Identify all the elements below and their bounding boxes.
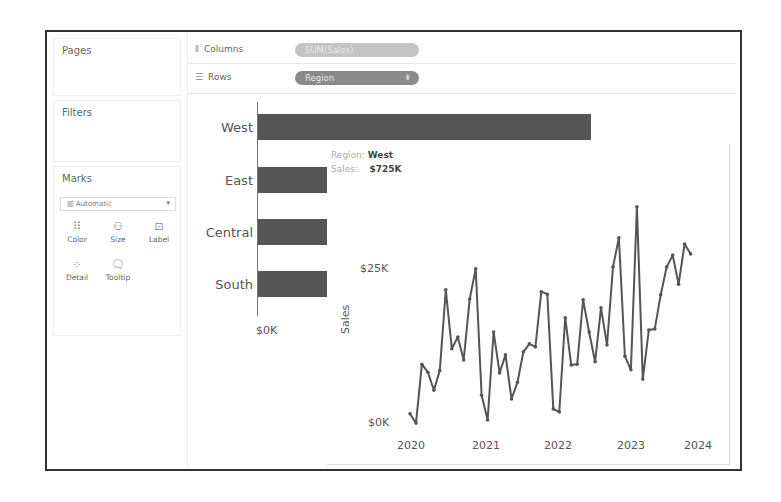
bar-east[interactable] <box>258 167 328 193</box>
filters-title: Filters <box>62 107 92 118</box>
filters-card[interactable]: Filters <box>53 100 181 162</box>
data-point[interactable] <box>689 252 693 256</box>
tooltip-panel: Region: West Sales: $725K $25K $0K Sales… <box>327 144 730 465</box>
region-pill-label: Region <box>305 73 334 83</box>
data-point[interactable] <box>414 421 418 425</box>
data-point[interactable] <box>504 353 508 357</box>
data-point[interactable] <box>563 316 567 320</box>
mark-type-value: Automatic <box>76 200 112 208</box>
side-panel: Pages Filters Marks ▥ Automatic ▾ ⠿ Colo… <box>47 32 188 469</box>
data-point[interactable] <box>653 327 657 331</box>
detail-dots-icon: ⁘ <box>58 257 96 273</box>
pages-card[interactable]: Pages <box>53 38 181 96</box>
data-point[interactable] <box>647 328 651 332</box>
data-point[interactable] <box>510 397 514 401</box>
size-label: Size <box>110 235 125 244</box>
label-box-icon: ⊡ <box>140 219 178 235</box>
region-label-east: East <box>183 173 253 188</box>
data-point[interactable] <box>683 242 687 246</box>
data-point[interactable] <box>408 412 412 416</box>
tooltip-button[interactable]: 🗨 Tooltip <box>99 257 137 291</box>
detail-label: Detail <box>66 273 88 282</box>
data-point[interactable] <box>635 205 639 209</box>
data-point[interactable] <box>575 362 579 366</box>
data-point[interactable] <box>587 330 591 334</box>
data-point[interactable] <box>480 393 484 397</box>
bar-axis-tick-0k: $0K <box>256 324 277 337</box>
marks-card: Marks ▥ Automatic ▾ ⠿ Color ⚇ Size ⊡ Lab… <box>53 166 181 336</box>
data-point[interactable] <box>498 371 502 375</box>
data-point[interactable] <box>462 358 466 362</box>
size-circles-icon: ⚇ <box>99 219 137 235</box>
data-point[interactable] <box>599 306 603 310</box>
shelf-divider <box>189 93 736 94</box>
data-point[interactable] <box>534 345 538 349</box>
tooltip-bubble-icon: 🗨 <box>99 257 137 273</box>
chevron-down-icon: ▾ <box>166 199 170 207</box>
data-point[interactable] <box>593 360 597 364</box>
shelf-divider <box>189 63 736 64</box>
rows-icon: ☰ <box>195 72 203 82</box>
sales-data-points <box>408 205 692 425</box>
rows-pill-region[interactable]: Region ⇟ <box>295 71 419 85</box>
data-point[interactable] <box>528 342 532 346</box>
data-point[interactable] <box>420 362 424 366</box>
data-point[interactable] <box>677 283 681 287</box>
data-point[interactable] <box>450 347 454 351</box>
data-point[interactable] <box>569 363 573 367</box>
mark-type-dropdown[interactable]: ▥ Automatic ▾ <box>60 197 176 211</box>
region-label-west: West <box>183 120 253 135</box>
data-point[interactable] <box>659 293 663 297</box>
data-point[interactable] <box>605 343 609 347</box>
bar-chart-icon: ▥ <box>67 200 74 208</box>
region-label-south: South <box>183 277 253 292</box>
columns-pill-sum-sales[interactable]: SUM(Sales) <box>295 43 419 57</box>
pages-title: Pages <box>62 45 91 56</box>
data-point[interactable] <box>617 236 621 240</box>
color-dots-icon: ⠿ <box>58 219 96 235</box>
color-button[interactable]: ⠿ Color <box>58 219 96 253</box>
data-point[interactable] <box>516 380 520 384</box>
data-point[interactable] <box>552 407 556 411</box>
sales-line <box>410 207 691 423</box>
data-point[interactable] <box>438 369 442 373</box>
columns-icon: ⦀ <box>195 44 199 54</box>
data-point[interactable] <box>522 350 526 354</box>
bar-central[interactable] <box>258 219 328 245</box>
data-point[interactable] <box>671 253 675 257</box>
label-label: Label <box>149 235 169 244</box>
data-point[interactable] <box>474 267 478 271</box>
data-point[interactable] <box>486 418 490 422</box>
data-point[interactable] <box>629 368 633 372</box>
sales-line-chart[interactable] <box>327 144 729 464</box>
data-point[interactable] <box>468 297 472 301</box>
columns-shelf-label: ⦀Columns <box>195 44 243 55</box>
marks-title: Marks <box>62 173 92 184</box>
tableau-workspace: Pages Filters Marks ▥ Automatic ▾ ⠿ Colo… <box>45 30 742 471</box>
data-point[interactable] <box>641 377 645 381</box>
data-point[interactable] <box>623 354 627 358</box>
detail-button[interactable]: ⁘ Detail <box>58 257 96 291</box>
data-point[interactable] <box>546 292 550 296</box>
data-point[interactable] <box>456 335 460 339</box>
bar-west[interactable] <box>258 114 591 140</box>
data-point[interactable] <box>581 298 585 302</box>
data-point[interactable] <box>426 371 430 375</box>
data-point[interactable] <box>432 389 436 393</box>
tooltip-label: Tooltip <box>106 273 130 282</box>
sort-descending-icon[interactable]: ⇟ <box>404 71 411 85</box>
size-button[interactable]: ⚇ Size <box>99 219 137 253</box>
data-point[interactable] <box>492 330 496 334</box>
data-point[interactable] <box>665 265 669 269</box>
data-point[interactable] <box>611 265 615 269</box>
region-label-central: Central <box>183 225 253 240</box>
data-point[interactable] <box>558 410 562 414</box>
bar-south[interactable] <box>258 271 328 297</box>
data-point[interactable] <box>444 288 448 292</box>
rows-shelf-label: ☰Rows <box>195 72 231 82</box>
color-label: Color <box>67 235 87 244</box>
data-point[interactable] <box>540 290 544 294</box>
label-button[interactable]: ⊡ Label <box>140 219 178 253</box>
